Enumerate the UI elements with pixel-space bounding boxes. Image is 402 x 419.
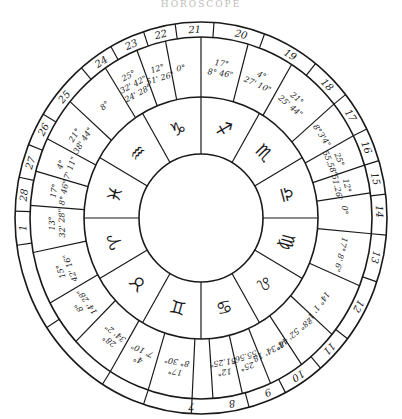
degree-value: 8° — [98, 99, 111, 112]
zodiac-virgo-icon: ♍ — [275, 231, 299, 252]
degree-entry: 15°42' 16" — [52, 253, 80, 287]
degree-entry: 4°7' 10" — [125, 341, 155, 368]
house-divider — [311, 357, 321, 368]
house-number: 21 — [187, 24, 201, 35]
house-number: 22 — [152, 28, 168, 42]
house-divider — [144, 390, 149, 404]
degree-divider — [192, 339, 195, 399]
house-number: 15 — [369, 171, 382, 186]
degree-entry: 8°3'4" — [311, 123, 332, 149]
degree-entry: 21°25' 44" — [276, 85, 311, 119]
degree-value: 8° 46" — [207, 67, 234, 79]
degree-entry: 28°34' 2" — [97, 322, 127, 352]
house-divider — [371, 194, 386, 196]
house-divider — [15, 211, 30, 212]
house-number: 14 — [374, 205, 385, 218]
zodiac-taurus-icon: ♉ — [125, 270, 151, 296]
degree-entry: 17°8° 46" — [48, 178, 71, 206]
degree-entry: 17°8° 30" — [162, 355, 190, 378]
degree-entry: 4°7' 11" — [53, 152, 79, 181]
degree-entry: 8°14' 28" — [67, 287, 99, 321]
degree-entry: 0° — [176, 63, 186, 73]
zodiac-sagittarius-icon: ♐ — [214, 116, 235, 140]
degree-value: 0° — [340, 205, 349, 215]
degree-value: 13° — [47, 216, 56, 230]
house-divider — [81, 68, 91, 79]
degree-entry: 25°32' 42"24' 28" — [113, 65, 153, 105]
house-number: 9 — [262, 386, 273, 399]
zodiac-leo-icon: ♌ — [251, 270, 277, 296]
zodiac-pisces-icon: ♓ — [102, 184, 126, 205]
degree-entry: 17°8° 46" — [207, 57, 235, 79]
house-number: 20 — [233, 27, 249, 41]
zodiac-capricorn-icon: ♑ — [167, 116, 188, 140]
house-divider — [17, 243, 32, 245]
degree-value: 32' 28" — [57, 209, 67, 238]
house-number: 28 — [17, 188, 30, 203]
house-divider — [111, 47, 118, 60]
degree-entry: 4°27' 10" — [242, 65, 277, 94]
house-divider — [353, 129, 366, 136]
house-number: 18 — [319, 76, 336, 93]
house-divider — [29, 145, 43, 151]
house-number: 25 — [55, 88, 72, 106]
degree-value: 8° 30" — [164, 355, 191, 368]
house-number: 24 — [92, 54, 110, 71]
house-divider — [336, 329, 348, 338]
house-divider — [363, 277, 377, 282]
house-divider — [175, 24, 177, 39]
house-number: 7 — [188, 401, 196, 412]
degree-entry: 17° 8' 6" — [332, 236, 349, 272]
house-divider — [259, 34, 264, 48]
chart-title: HOROSCOPE — [161, 0, 241, 9]
house-divider — [371, 234, 386, 235]
house-divider — [334, 95, 346, 104]
house-divider — [19, 177, 34, 180]
degree-value: 51.26" — [330, 174, 344, 202]
house-divider — [279, 379, 286, 392]
house-divider — [102, 371, 110, 384]
house-divider — [365, 161, 379, 165]
degree-value: 17° 8' 6" — [332, 236, 349, 272]
degree-divider — [33, 241, 86, 252]
house-divider — [144, 32, 149, 46]
house-divider — [245, 393, 249, 407]
zodiac-scorpio-icon: ♏ — [251, 139, 277, 165]
house-number: 27 — [23, 155, 38, 172]
house-number: 1 — [17, 224, 28, 231]
zodiac-aries-icon: ♈ — [102, 231, 126, 252]
degree-entry: 13°32' 28" — [47, 209, 67, 238]
degree-divider — [233, 44, 248, 102]
house-divider — [213, 22, 214, 37]
degree-value: 8°3'4" — [311, 123, 332, 149]
degree-divider — [318, 229, 372, 234]
astrological-chart: HOROSCOPE ♑♐♏♎♍♌♋♊♉♈♓♒ 78910111213141516… — [0, 0, 402, 419]
degree-value: 14° 1' 1" — [303, 290, 331, 324]
house-number: 8 — [228, 398, 236, 410]
degree-divider — [148, 333, 165, 390]
zodiac-libra-icon: ♎ — [275, 184, 299, 205]
degree-value: 0° — [176, 63, 186, 73]
inner-circle — [139, 154, 263, 282]
degree-entry: 14° 1' 1" — [303, 290, 331, 324]
zodiac-cancer-icon: ♋ — [214, 295, 235, 319]
zodiac-aquarius-icon: ♒ — [125, 139, 151, 165]
degree-entry: 8° — [98, 99, 111, 112]
degree-value: 7' 11" — [62, 155, 79, 180]
zodiac-gemini-icon: ♊ — [167, 295, 188, 319]
degree-entry: 0° — [340, 205, 349, 215]
degree-value: 8° 46" — [57, 179, 70, 206]
house-divider — [47, 319, 59, 327]
house-divider — [306, 64, 315, 76]
house-number: 13 — [369, 250, 382, 265]
house-divider — [43, 114, 56, 122]
